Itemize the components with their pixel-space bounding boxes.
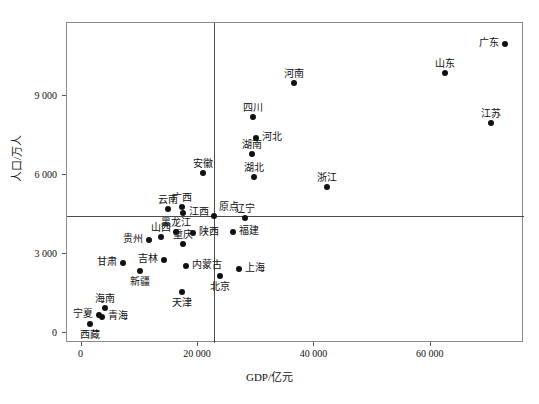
vertical-reference-line bbox=[214, 23, 215, 343]
data-point-label: 浙江 bbox=[317, 173, 337, 183]
data-point-label: 河南 bbox=[284, 69, 304, 79]
data-point bbox=[250, 114, 256, 120]
data-point-label: 广东 bbox=[479, 38, 499, 48]
data-point bbox=[242, 215, 248, 221]
data-point-label: 河北 bbox=[262, 132, 282, 142]
y-axis-tick-label: 0 bbox=[52, 326, 57, 337]
data-point-label: 广西 bbox=[172, 193, 192, 203]
y-axis-tick-label: 3 000 bbox=[35, 247, 58, 258]
data-point-label: 安徽 bbox=[193, 159, 213, 169]
data-point-label: 上海 bbox=[245, 263, 265, 273]
data-point bbox=[137, 268, 143, 274]
data-point-label: 天津 bbox=[172, 298, 192, 308]
data-point bbox=[217, 273, 223, 279]
data-point bbox=[179, 204, 185, 210]
scatter-chart: 原点广东山东江苏河南四川河北湖南湖北浙江安徽云南广西江西辽宁福建陕西黑龙江山西贵… bbox=[0, 0, 539, 404]
data-point-label: 内蒙古 bbox=[192, 260, 222, 270]
data-point-label: 陕西 bbox=[199, 227, 219, 237]
data-point-label: 江西 bbox=[189, 207, 209, 217]
data-point-label: 青海 bbox=[108, 311, 128, 321]
x-axis-tick-label: 40 000 bbox=[300, 348, 328, 359]
x-axis-label: GDP/亿元 bbox=[0, 368, 539, 384]
y-axis-tick bbox=[62, 95, 66, 96]
data-point bbox=[488, 120, 494, 126]
data-point bbox=[251, 174, 257, 180]
y-axis-tick bbox=[62, 253, 66, 254]
data-point bbox=[180, 241, 186, 247]
data-point-label: 四川 bbox=[243, 103, 263, 113]
data-point bbox=[99, 314, 105, 320]
data-point bbox=[249, 151, 255, 157]
data-point-label: 贵州 bbox=[123, 234, 143, 244]
data-point bbox=[200, 170, 206, 176]
data-point-label: 吉林 bbox=[138, 254, 158, 264]
y-axis-tick-label: 6 000 bbox=[35, 169, 58, 180]
data-point bbox=[502, 41, 508, 47]
y-axis-label: 人口/万人 bbox=[8, 135, 24, 182]
x-axis-tick bbox=[313, 342, 314, 346]
data-point-label: 新疆 bbox=[130, 277, 150, 287]
data-point-label: 江苏 bbox=[481, 109, 501, 119]
data-point bbox=[230, 229, 236, 235]
data-point bbox=[324, 184, 330, 190]
y-axis-tick bbox=[62, 174, 66, 175]
data-point bbox=[165, 206, 171, 212]
horizontal-reference-line bbox=[67, 216, 524, 217]
data-point bbox=[442, 70, 448, 76]
x-axis-tick bbox=[197, 342, 198, 346]
data-point bbox=[161, 257, 167, 263]
data-point bbox=[291, 80, 297, 86]
data-point-label: 山西 bbox=[151, 223, 171, 233]
data-point bbox=[158, 234, 164, 240]
x-axis-tick-label: 60 000 bbox=[416, 348, 444, 359]
x-axis-tick-label: 0 bbox=[78, 348, 83, 359]
y-axis-tick bbox=[62, 332, 66, 333]
data-point bbox=[120, 260, 126, 266]
data-point-label: 宁夏 bbox=[73, 309, 93, 319]
data-point bbox=[146, 237, 152, 243]
data-point-label: 重庆 bbox=[173, 230, 193, 240]
x-axis-tick-label: 20 000 bbox=[183, 348, 211, 359]
data-point-label: 北京 bbox=[210, 282, 230, 292]
data-point-label: 甘肃 bbox=[97, 257, 117, 267]
data-point-label: 西藏 bbox=[80, 330, 100, 340]
data-point-label: 湖北 bbox=[244, 163, 264, 173]
plot-area: 原点广东山东江苏河南四川河北湖南湖北浙江安徽云南广西江西辽宁福建陕西黑龙江山西贵… bbox=[66, 22, 523, 342]
data-point-label: 福建 bbox=[239, 226, 259, 236]
data-point bbox=[236, 266, 242, 272]
x-axis-tick bbox=[81, 342, 82, 346]
data-point-label: 湖南 bbox=[242, 140, 262, 150]
data-point bbox=[180, 210, 186, 216]
data-point-label: 辽宁 bbox=[235, 204, 255, 214]
data-point bbox=[183, 263, 189, 269]
x-axis-tick bbox=[430, 342, 431, 346]
data-point-label: 海南 bbox=[95, 294, 115, 304]
y-axis-tick-label: 9 000 bbox=[35, 90, 58, 101]
data-point-origin bbox=[211, 213, 217, 219]
data-point bbox=[87, 321, 93, 327]
data-point bbox=[179, 289, 185, 295]
data-point-label: 山东 bbox=[435, 59, 455, 69]
